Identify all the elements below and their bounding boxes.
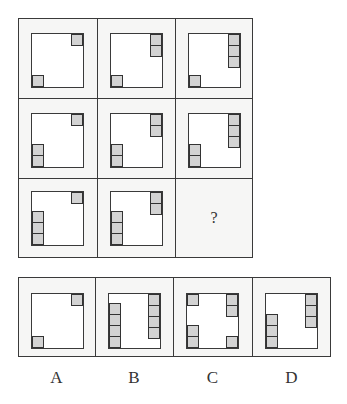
inner-square xyxy=(110,33,163,88)
gray-block xyxy=(111,144,123,156)
gray-block xyxy=(266,336,278,348)
inner-square xyxy=(188,113,241,168)
gray-block xyxy=(187,325,199,337)
inner-square xyxy=(108,293,161,349)
gray-block xyxy=(150,203,162,215)
gray-block xyxy=(71,192,83,204)
matrix-cell-r1c3 xyxy=(176,19,252,99)
inner-square xyxy=(110,191,163,246)
gray-block xyxy=(189,144,201,156)
question-mark: ? xyxy=(176,209,252,227)
matrix-cell-r2c1 xyxy=(19,99,98,179)
gray-block xyxy=(32,144,44,156)
matrix-cell-r2c3 xyxy=(176,99,252,179)
option-c[interactable] xyxy=(174,278,253,356)
gray-block xyxy=(111,233,123,245)
gray-block xyxy=(226,336,238,348)
option-label-d: D xyxy=(252,368,331,388)
gray-block xyxy=(32,222,44,234)
gray-block xyxy=(32,155,44,167)
gray-block xyxy=(226,305,238,317)
option-label-c: C xyxy=(173,368,252,388)
inner-square xyxy=(265,293,318,349)
inner-square xyxy=(110,113,163,168)
gray-block xyxy=(111,75,123,87)
gray-block xyxy=(71,34,83,46)
inner-square xyxy=(31,33,84,88)
inner-square xyxy=(188,33,241,88)
option-label-a: A xyxy=(18,368,95,388)
gray-block xyxy=(150,125,162,137)
matrix-cell-r1c1 xyxy=(19,19,98,99)
inner-square xyxy=(31,113,84,168)
gray-block xyxy=(32,75,44,87)
gray-block xyxy=(111,222,123,234)
option-labels: A B C D xyxy=(18,368,331,388)
gray-block xyxy=(111,211,123,223)
gray-block xyxy=(228,56,240,68)
gray-block xyxy=(71,114,83,126)
gray-block xyxy=(32,211,44,223)
inner-square xyxy=(31,191,84,246)
gray-block xyxy=(228,136,240,148)
matrix-cell-r3c1 xyxy=(19,179,98,257)
gray-block xyxy=(109,303,121,315)
gray-block xyxy=(189,155,201,167)
gray-block xyxy=(189,75,201,87)
option-d[interactable] xyxy=(253,278,330,356)
matrix-cell-missing: ? xyxy=(176,179,252,257)
gray-block xyxy=(32,233,44,245)
gray-block xyxy=(109,314,121,326)
gray-block xyxy=(109,325,121,337)
matrix-cell-r3c2 xyxy=(98,179,176,257)
option-a[interactable] xyxy=(19,278,96,356)
gray-block xyxy=(150,45,162,57)
gray-block xyxy=(32,336,44,348)
gray-block xyxy=(266,325,278,337)
gray-block xyxy=(187,294,199,306)
gray-block xyxy=(305,316,317,328)
gray-block xyxy=(111,155,123,167)
inner-square xyxy=(186,293,239,349)
gray-block xyxy=(109,336,121,348)
matrix-cell-r2c2 xyxy=(98,99,176,179)
answer-options xyxy=(18,277,331,357)
gray-block xyxy=(266,314,278,326)
matrix-cell-r1c2 xyxy=(98,19,176,99)
option-label-b: B xyxy=(95,368,173,388)
gray-block xyxy=(187,336,199,348)
option-b[interactable] xyxy=(96,278,174,356)
gray-block xyxy=(148,327,160,339)
inner-square xyxy=(31,293,84,349)
puzzle-matrix: ? xyxy=(18,18,253,258)
gray-block xyxy=(71,294,83,306)
